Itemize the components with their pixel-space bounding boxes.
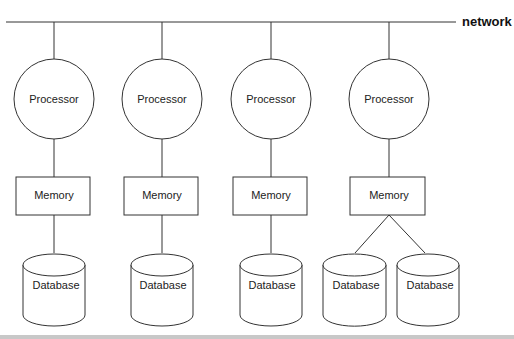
- database-label: Database: [248, 279, 295, 291]
- memory-label: Memory: [369, 189, 409, 201]
- database-label: Database: [332, 279, 379, 291]
- memory-label: Memory: [142, 189, 182, 201]
- memory-label: Memory: [34, 189, 74, 201]
- bottom-edge-strip: [0, 335, 514, 339]
- shared-nothing-diagram: network Processor Processor Processor Pr…: [0, 0, 514, 339]
- processor-label: Processor: [29, 93, 79, 105]
- network-label: network: [462, 14, 513, 29]
- memory-label: Memory: [251, 189, 291, 201]
- database-label: Database: [406, 279, 453, 291]
- database-label: Database: [139, 279, 186, 291]
- processor-label: Processor: [137, 93, 187, 105]
- processor-label: Processor: [364, 93, 414, 105]
- processor-label: Processor: [246, 93, 296, 105]
- database-label: Database: [32, 279, 79, 291]
